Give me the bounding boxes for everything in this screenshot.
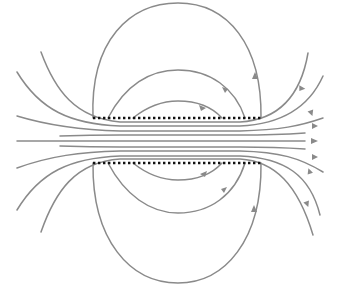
through-line-6 xyxy=(60,146,305,149)
arrow-icon xyxy=(312,123,318,129)
outer-loop-bottom xyxy=(93,163,261,283)
arrow-icon xyxy=(306,168,314,176)
through-line-4 xyxy=(60,133,305,136)
arrow-icon xyxy=(312,154,318,160)
direction-arrows xyxy=(199,72,318,212)
arrow-icon xyxy=(311,138,318,144)
through-line-7 xyxy=(17,151,323,172)
through-line-9 xyxy=(41,159,313,235)
inner-loop-top xyxy=(133,101,222,118)
middle-loop-top xyxy=(108,70,245,118)
arrow-icon xyxy=(308,109,316,117)
arrow-icon xyxy=(303,200,311,208)
inner-loop-bottom xyxy=(133,163,222,180)
arrow-icon xyxy=(221,187,227,193)
field-line-diagram xyxy=(0,0,360,300)
through-line-8 xyxy=(17,156,320,215)
through-line-1 xyxy=(41,52,308,122)
